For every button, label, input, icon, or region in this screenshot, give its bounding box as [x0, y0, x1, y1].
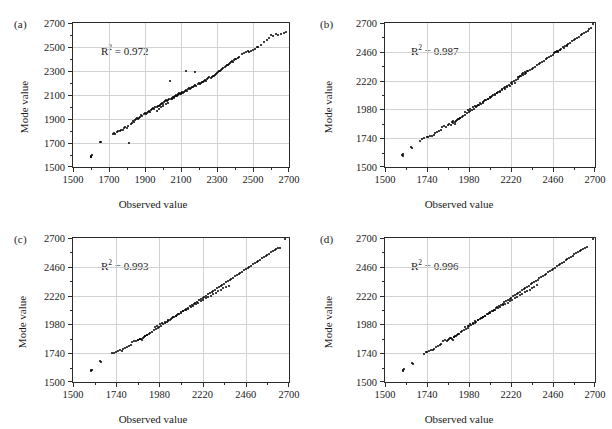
y-tick-major	[68, 166, 73, 167]
y-tick-label: 2700	[356, 18, 377, 29]
scatter-point	[455, 335, 457, 337]
x-tick-minor	[163, 167, 164, 170]
y-tick-minor	[382, 368, 385, 369]
y-tick-label: 1500	[356, 162, 377, 173]
scatter-point	[220, 289, 222, 291]
x-tick-minor	[574, 382, 575, 385]
y-tick-major	[68, 71, 73, 72]
x-tick-label: 2700	[279, 389, 300, 400]
scatter-point	[217, 290, 219, 292]
x-tick-minor	[235, 167, 236, 170]
y-tick-label: 1740	[356, 348, 377, 359]
x-tick-major	[469, 167, 470, 172]
scatter-point	[167, 102, 169, 104]
scatter-point	[464, 326, 466, 328]
scatter-point	[266, 39, 268, 41]
x-tick-minor	[181, 382, 182, 385]
x-tick-label: 2700	[585, 389, 606, 400]
x-tick-label: 2220	[192, 389, 213, 400]
x-tick-major	[159, 382, 160, 387]
x-tick-major	[145, 167, 146, 172]
y-tick-label: 2100	[44, 90, 65, 101]
gridline-horizontal	[73, 324, 289, 325]
scatter-point	[238, 56, 240, 58]
x-axis-label-d: Observed value	[306, 413, 612, 425]
y-tick-minor	[70, 310, 73, 311]
scatter-point	[272, 35, 274, 37]
r-squared-annotation-d: R2 = 0.996	[411, 258, 459, 272]
scatter-point	[529, 289, 531, 291]
x-tick-major	[511, 382, 512, 387]
y-tick-label: 1740	[44, 348, 65, 359]
y-tick-label: 1500	[44, 162, 65, 173]
figure-scatter-grid: (a) Mode value Observed value R2 = 0.972…	[0, 0, 612, 429]
scatter-point	[590, 27, 592, 29]
scatter-point	[566, 45, 568, 47]
scatter-point	[524, 291, 526, 293]
scatter-point	[192, 305, 194, 307]
x-tick-minor	[490, 167, 491, 170]
scatter-point	[467, 325, 469, 327]
scatter-point	[536, 284, 538, 286]
y-tick-label: 2700	[44, 233, 65, 244]
scatter-point	[197, 302, 199, 304]
x-tick-minor	[127, 167, 128, 170]
scatter-point	[232, 61, 234, 63]
x-tick-major	[385, 167, 386, 172]
gridline-vertical	[427, 238, 428, 382]
scatter-point	[202, 299, 204, 301]
x-tick-minor	[406, 167, 407, 170]
scatter-point	[277, 34, 279, 36]
r-squared-annotation-c: R2 = 0.993	[101, 258, 149, 272]
y-axis-label-c: Mode value	[16, 267, 28, 377]
gridline-horizontal	[385, 109, 595, 110]
scatter-point	[421, 138, 423, 140]
panel-d: (d) Mode value Observed value R2 = 0.996…	[306, 215, 612, 429]
scatter-point	[263, 41, 265, 43]
scatter-point	[169, 80, 171, 82]
scatter-point	[173, 97, 175, 99]
y-tick-label: 1700	[44, 138, 65, 149]
x-tick-label: 1980	[459, 174, 480, 185]
x-tick-minor	[574, 167, 575, 170]
y-tick-major	[68, 95, 73, 96]
scatter-point	[222, 287, 224, 289]
scatter-point	[592, 23, 594, 25]
y-tick-label: 2220	[356, 75, 377, 86]
x-tick-major	[253, 167, 254, 172]
x-tick-label: 2460	[235, 389, 256, 400]
scatter-point	[153, 108, 155, 110]
gridline-vertical	[116, 238, 117, 382]
scatter-point	[507, 302, 509, 304]
scatter-point	[158, 108, 160, 110]
y-tick-major	[380, 52, 385, 53]
gridline-horizontal	[385, 81, 595, 82]
panel-b: (b) Mode value Observed value R2 = 0.987…	[306, 0, 612, 214]
gridline-vertical	[246, 238, 247, 382]
x-tick-label: 1500	[375, 174, 396, 185]
y-tick-label: 1980	[356, 319, 377, 330]
scatter-point	[170, 318, 172, 320]
plot-area-c: R2 = 0.993 15001740198022202460270015001…	[72, 237, 290, 383]
scatter-point	[279, 247, 281, 249]
gridline-vertical	[427, 23, 428, 167]
x-tick-label: 2220	[501, 174, 522, 185]
x-tick-label: 1900	[135, 174, 156, 185]
x-tick-minor	[532, 167, 533, 170]
x-tick-major	[116, 382, 117, 387]
x-tick-label: 2220	[501, 389, 522, 400]
x-tick-major	[427, 382, 428, 387]
y-tick-label: 1980	[356, 104, 377, 115]
scatter-point	[137, 118, 139, 120]
scatter-point	[180, 312, 182, 314]
scatter-point	[187, 308, 189, 310]
scatter-point	[412, 363, 414, 365]
gridline-horizontal	[73, 267, 289, 268]
y-tick-label: 2460	[356, 261, 377, 272]
scatter-point	[477, 104, 479, 106]
x-tick-minor	[271, 167, 272, 170]
x-tick-major	[385, 382, 386, 387]
y-tick-label: 1500	[44, 377, 65, 388]
y-tick-minor	[70, 252, 73, 253]
y-tick-major	[380, 267, 385, 268]
